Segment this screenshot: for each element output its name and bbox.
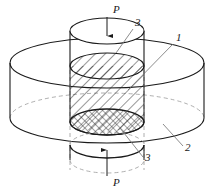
technical-diagram: P 3 1 2 3 P [0,0,213,191]
callout-label-3-top: 3 [134,16,141,28]
specimen-bottom-face [70,109,144,135]
specimen-top-face [70,53,144,79]
callout-label-2: 2 [185,141,191,153]
specimen-core [68,53,148,135]
load-label-bottom: P [112,176,120,188]
load-label-top: P [112,3,120,15]
callout-label-3-bottom: 3 [144,151,151,163]
callout-label-1: 1 [176,31,182,43]
diagram-canvas: P 3 1 2 3 P [0,0,213,191]
